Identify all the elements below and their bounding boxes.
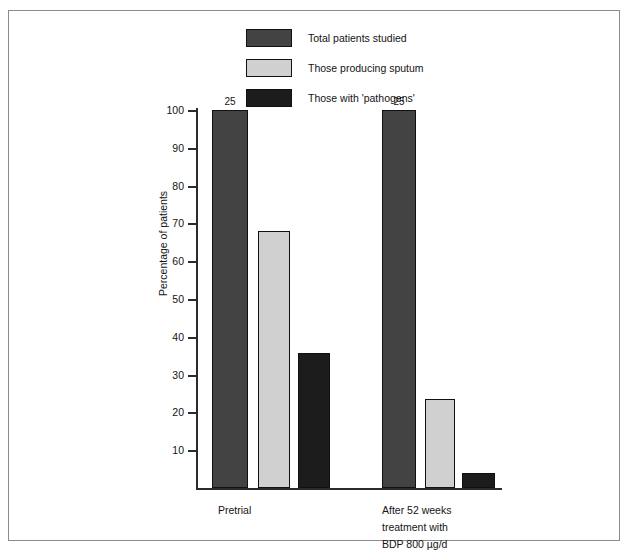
bar-value-label: 25 bbox=[224, 96, 235, 107]
y-axis-tick-mark bbox=[188, 412, 197, 414]
y-axis-tick-mark bbox=[188, 450, 197, 452]
legend-label-producing-sputum: Those producing sputum bbox=[308, 63, 424, 74]
y-axis-tick-mark bbox=[188, 261, 197, 263]
y-axis-tick-mark bbox=[188, 375, 197, 377]
y-axis-tick-mark bbox=[188, 148, 197, 150]
x-axis-group-label: Pretrial bbox=[218, 502, 251, 519]
y-axis-tick-label: 100 bbox=[166, 104, 184, 116]
bar-value-label: 25 bbox=[393, 96, 404, 107]
bar: 25 bbox=[382, 110, 416, 488]
legend-item: Those with 'pathogens' bbox=[246, 87, 506, 109]
y-axis-tick-label: 40 bbox=[172, 331, 184, 343]
y-axis-tick-label: 20 bbox=[172, 406, 184, 418]
legend-label-total-patients: Total patients studied bbox=[308, 33, 407, 44]
y-axis-tick-label: 80 bbox=[172, 180, 184, 192]
y-axis-tick-label: 70 bbox=[172, 217, 184, 229]
y-axis-tick-label: 50 bbox=[172, 293, 184, 305]
y-axis-tick-label: 10 bbox=[172, 444, 184, 456]
y-axis-tick-mark bbox=[188, 299, 197, 301]
x-axis-line bbox=[196, 488, 502, 490]
y-axis-line bbox=[196, 108, 198, 488]
x-axis-group-label-line: Pretrial bbox=[218, 502, 251, 519]
x-axis-group-label-line: treatment with bbox=[382, 519, 451, 536]
y-axis-title: Percentage of patients bbox=[157, 191, 169, 296]
bar bbox=[462, 473, 495, 488]
legend-swatch-producing-sputum bbox=[246, 59, 292, 77]
bar bbox=[258, 231, 290, 488]
y-axis-tick-label: 60 bbox=[172, 255, 184, 267]
legend-swatch-total-patients bbox=[246, 29, 292, 47]
bar bbox=[425, 399, 455, 488]
y-axis-tick-mark bbox=[188, 186, 197, 188]
y-axis-tick-mark bbox=[188, 110, 197, 112]
bar: 25 bbox=[212, 110, 248, 488]
x-axis-group-label-line: BDP 800 µg/d bbox=[382, 536, 451, 553]
y-axis-tick-label: 30 bbox=[172, 369, 184, 381]
x-axis-group-label-line: After 52 weeks bbox=[382, 502, 451, 519]
figure: Total patients studied Those producing s… bbox=[0, 0, 633, 553]
legend-item: Total patients studied bbox=[246, 27, 506, 49]
bar bbox=[298, 353, 330, 488]
x-axis-group-label: After 52 weekstreatment withBDP 800 µg/d bbox=[382, 502, 451, 553]
chart-legend: Total patients studied Those producing s… bbox=[246, 27, 506, 117]
legend-swatch-pathogens bbox=[246, 89, 292, 107]
y-axis-tick-label: 90 bbox=[172, 142, 184, 154]
y-axis-tick-mark bbox=[188, 223, 197, 225]
y-axis-tick-mark bbox=[188, 337, 197, 339]
plot-area: 100908070605040302010 2525 PretrialAfter… bbox=[196, 110, 502, 488]
legend-item: Those producing sputum bbox=[246, 57, 506, 79]
